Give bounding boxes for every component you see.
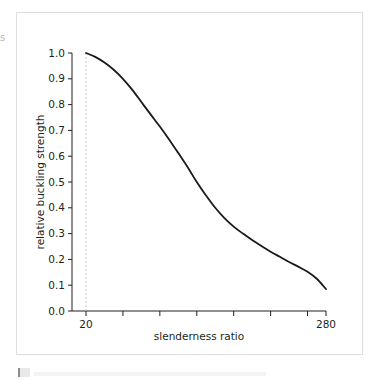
y-tick-label: 0.0 [48, 305, 65, 317]
y-tick-label: 0.1 [48, 279, 65, 291]
x-tick-label: 20 [79, 318, 92, 330]
y-tick-label: 0.9 [48, 72, 65, 84]
x-axis-tick-labels: 20280 [79, 318, 336, 330]
y-tick-label: 0.4 [48, 201, 65, 213]
y-tick-label: 1.0 [48, 47, 65, 59]
x-axis-title: slenderness ratio [154, 330, 244, 342]
y-tick-label: 0.8 [48, 98, 65, 110]
y-axis-title: relative buckling strength [34, 115, 46, 250]
footer-strip [18, 368, 268, 377]
x-axis-ticks [86, 311, 326, 316]
y-tick-label: 0.5 [48, 176, 65, 188]
footer-swatch-icon [18, 368, 30, 377]
y-axis-group: 0.00.10.20.30.40.50.60.70.80.91.0 relati… [34, 47, 72, 317]
y-tick-label: 0.2 [48, 253, 65, 265]
y-axis-tick-labels: 0.00.10.20.30.40.50.60.70.80.91.0 [48, 47, 65, 317]
y-tick-label: 0.6 [48, 150, 65, 162]
buckling-curve [86, 53, 326, 289]
y-tick-label: 0.7 [48, 124, 65, 136]
buckling-strength-chart: 0.00.10.20.30.40.50.60.70.80.91.0 relati… [0, 0, 380, 380]
x-axis-group: 20280 slenderness ratio [72, 311, 336, 342]
x-tick-label: 280 [316, 318, 336, 330]
footer-rule [34, 372, 266, 376]
y-axis-ticks [68, 53, 72, 311]
y-tick-label: 0.3 [48, 227, 65, 239]
